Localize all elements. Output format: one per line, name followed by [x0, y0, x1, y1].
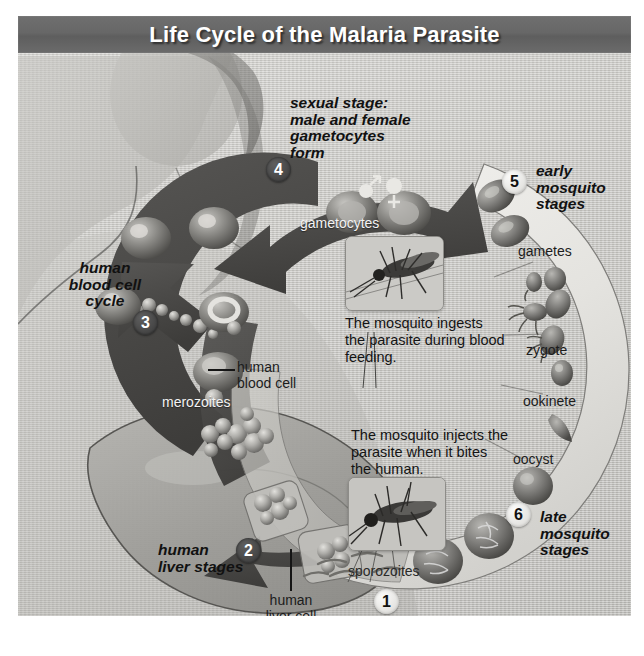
stage-2-label: human liver stages: [158, 542, 243, 575]
inject-line2: parasite when it bites: [351, 444, 526, 461]
liver-cell-leader-line: [290, 549, 292, 591]
stage-6-line1: late: [540, 509, 610, 526]
stage-5-line1: early: [536, 163, 606, 180]
mosquito-feeding-photo: [345, 236, 444, 311]
zygote-label: zygote: [526, 343, 567, 359]
stage-4-line2: male and female: [290, 112, 411, 129]
human-liver-cell-line1: human: [254, 593, 328, 609]
stage-3-label: human blood cell cycle: [66, 260, 144, 310]
merozoites-label: merozoites: [162, 395, 230, 411]
ingest-callout-text: The mosquito ingests the parasite during…: [345, 315, 510, 366]
stage-6-label: late mosquito stages: [540, 509, 610, 559]
ookinete-label: ookinete: [523, 394, 576, 410]
stage-3-line1: human: [66, 260, 144, 277]
gametocytes-label: gametocytes: [300, 216, 379, 232]
page-title: Life Cycle of the Malaria Parasite: [149, 22, 499, 48]
mosquito-biting-photo: [348, 477, 446, 551]
inject-line1: The mosquito injects the: [351, 427, 526, 444]
stage-number-3: 3: [133, 310, 158, 335]
stage-6-line2: mosquito: [540, 526, 610, 543]
human-liver-cell-label: human liver cell: [254, 593, 328, 616]
gametes-label: gametes: [518, 244, 572, 260]
blood-cell-leader-line: [208, 369, 235, 371]
stage-2-line2: liver stages: [158, 559, 243, 576]
stage-4-label: sexual stage: male and female gametocyte…: [290, 95, 411, 162]
human-liver-cell-line2: liver cell: [254, 609, 328, 616]
stage-5-label: early mosquito stages: [536, 163, 606, 213]
inject-line3: the human.: [351, 461, 526, 478]
stage-number-6: 6: [506, 502, 531, 527]
ingest-line2: the parasite during blood: [345, 332, 510, 349]
stage-number-2: 2: [236, 538, 261, 563]
stage-3-line2: blood cell: [66, 277, 144, 294]
stage-4-line1: sexual stage:: [290, 95, 411, 112]
stage-3-line3: cycle: [66, 293, 144, 310]
stage-5-line2: mosquito: [536, 180, 606, 197]
stage-number-5: 5: [502, 169, 527, 194]
stage-number-1: 1: [374, 589, 399, 614]
stage-4-line3: gametocytes: [290, 128, 411, 145]
inject-callout-text: The mosquito injects the parasite when i…: [351, 427, 526, 478]
human-blood-cell-line1: human: [237, 360, 296, 376]
stage-5-line3: stages: [536, 196, 606, 213]
human-blood-cell-line2: blood cell: [237, 376, 296, 392]
stage-2-line1: human: [158, 542, 243, 559]
human-blood-cell-label: human blood cell: [237, 360, 296, 391]
ingest-line1: The mosquito ingests: [345, 315, 510, 332]
stage-6-line3: stages: [540, 542, 610, 559]
ingest-line3: feeding.: [345, 349, 510, 366]
mosquito-feeding-illustration: [346, 237, 443, 310]
mosquito-biting-illustration: [349, 478, 445, 550]
malaria-life-cycle-figure: 1 2 3 4 5 6 sexual stage: male and femal…: [18, 16, 631, 616]
sporozoites-label: sporozoites: [348, 564, 420, 580]
figure-title-bar: Life Cycle of the Malaria Parasite: [18, 16, 631, 53]
stage-4-line4: form: [290, 145, 411, 162]
stage-number-4: 4: [266, 157, 291, 182]
